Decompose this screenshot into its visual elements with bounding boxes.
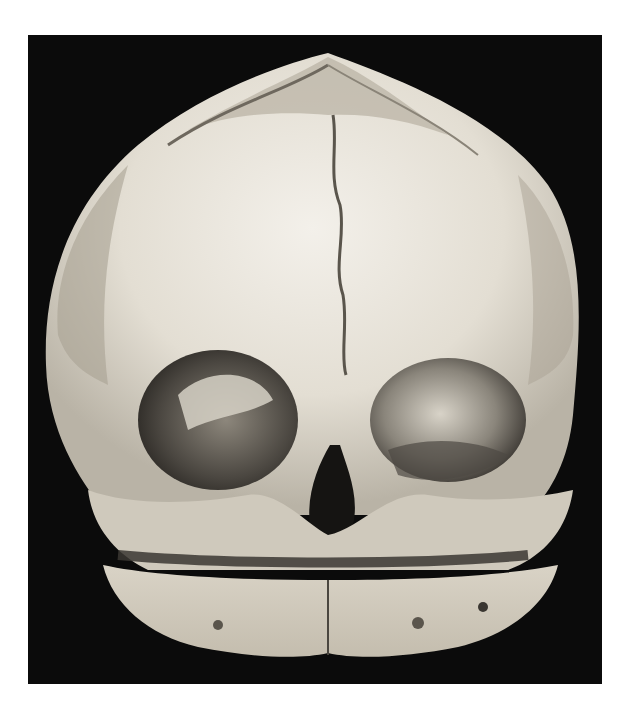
left-orbit	[138, 350, 298, 490]
skull-photograph	[28, 35, 602, 684]
mandible	[103, 565, 558, 657]
skull-illustration	[28, 35, 602, 684]
